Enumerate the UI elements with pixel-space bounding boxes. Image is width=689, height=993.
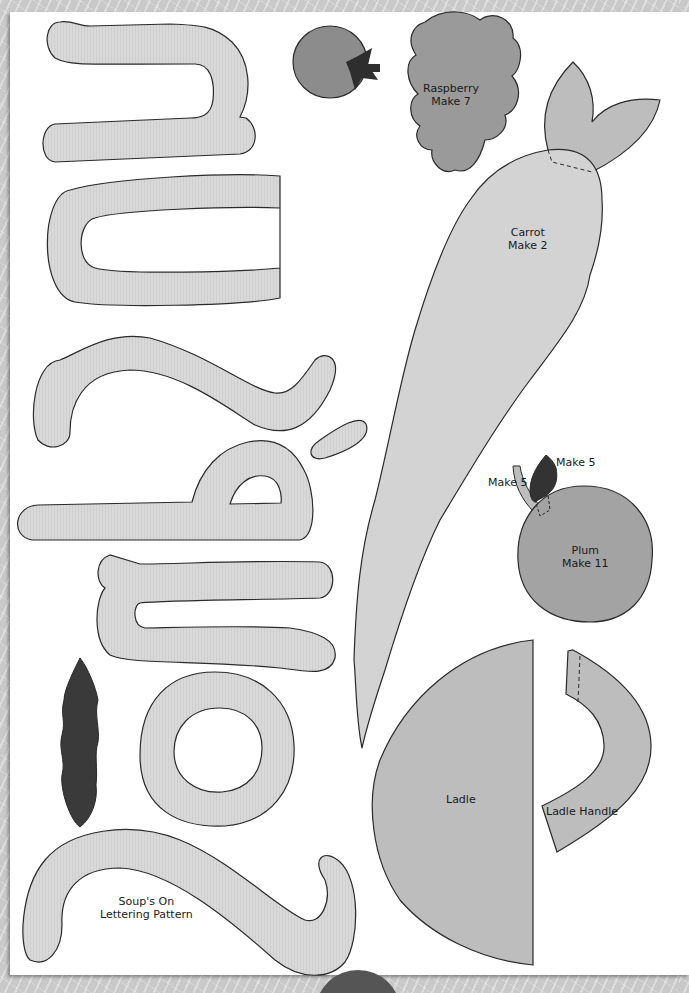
letter-s-piece: [33, 336, 335, 447]
carrot-qty: Make 2: [508, 239, 547, 252]
letter-n-piece: [43, 22, 255, 162]
letter-p-piece: [18, 441, 313, 540]
letter-u-piece: [97, 555, 335, 671]
letter-apostrophe-piece: [311, 420, 367, 458]
pattern-title-line2: Lettering Pattern: [100, 908, 193, 921]
carrot-name: Carrot: [508, 226, 547, 239]
pattern-title-line1: Soup's On: [100, 895, 193, 908]
letter-o-ring-piece: [140, 672, 294, 826]
plum-stem-label: Make 5: [488, 476, 527, 489]
plum-label: Plum Make 11: [562, 544, 608, 570]
raspberry-qty: Make 7: [423, 95, 479, 108]
ladle-label: Ladle: [446, 793, 476, 806]
ladle-handle-label: Ladle Handle: [546, 805, 618, 818]
pattern-title: Soup's On Lettering Pattern: [100, 895, 193, 921]
plum-name: Plum: [562, 544, 608, 557]
dark-leaf-piece: [61, 658, 99, 827]
ladle-handle-piece: [542, 650, 651, 852]
raspberry-name: Raspberry: [423, 82, 479, 95]
letter-o-piece: [47, 175, 280, 306]
plum-qty: Make 11: [562, 557, 608, 570]
raspberry-label: Raspberry Make 7: [423, 82, 479, 108]
plum-leaf-label: Make 5: [556, 456, 595, 469]
berry-piece: [293, 26, 380, 98]
carrot-label: Carrot Make 2: [508, 226, 547, 252]
